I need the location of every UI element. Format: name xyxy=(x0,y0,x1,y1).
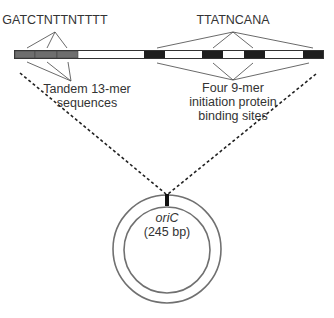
binding-site-4 xyxy=(303,51,323,58)
binding-sequence-label: TTATNCANA xyxy=(196,13,270,27)
binding-site-3 xyxy=(244,51,265,58)
tandem-segment-1 xyxy=(15,51,35,58)
origin-bar xyxy=(15,51,324,59)
binding-label-line1: Four 9-mer xyxy=(202,81,264,95)
tandem-segment-2 xyxy=(35,51,57,58)
oric-marker xyxy=(165,194,169,206)
binding-label-line2: initiation protein xyxy=(189,95,277,109)
oric-size: (245 bp) xyxy=(144,225,191,239)
oric-diagram: GATCTNTTNTTTT TTATNCANA Tandem 13-mer se… xyxy=(0,0,334,318)
binding-label-line3: binding sites xyxy=(198,109,268,123)
binding-site-1 xyxy=(144,51,165,58)
tandem-label-line2: sequences xyxy=(57,96,117,110)
tandem-sequence-label: GATCTNTTNTTTT xyxy=(2,13,108,27)
upper-connectors xyxy=(27,32,313,48)
oric-name: oriC xyxy=(156,211,180,225)
binding-site-2 xyxy=(202,51,223,58)
tandem-label-line1: Tandem 13-mer xyxy=(43,82,131,96)
lower-connectors xyxy=(27,62,309,81)
tandem-segment-3 xyxy=(57,51,78,58)
